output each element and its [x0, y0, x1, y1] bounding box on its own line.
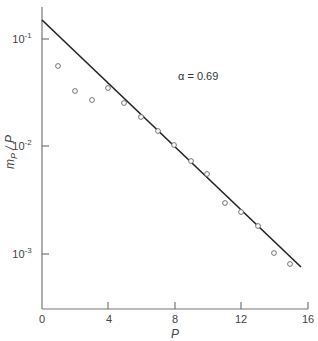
- y-tick-1e-1: 10-1: [12, 31, 32, 45]
- x-axis-label: P: [171, 327, 179, 341]
- x-tick-labels: 0 4 8 12 16: [39, 313, 314, 325]
- y-tick-1e-3: 10-3: [12, 246, 32, 260]
- data-points: [56, 64, 293, 267]
- fit-line: [42, 20, 301, 267]
- x-tick-4: 4: [106, 313, 112, 325]
- x-tick-12: 12: [235, 313, 247, 325]
- x-tick-16: 16: [302, 313, 314, 325]
- x-ticks: [108, 302, 308, 309]
- y-ticks: [42, 39, 49, 254]
- x-tick-0: 0: [39, 313, 45, 325]
- x-tick-8: 8: [172, 313, 178, 325]
- y-axis-label: mP / P: [3, 135, 19, 169]
- alpha-annotation: α = 0.69: [178, 70, 218, 82]
- chart: 0 4 8 12 16 10-1 10-2 10-3 P mP / P: [0, 0, 318, 341]
